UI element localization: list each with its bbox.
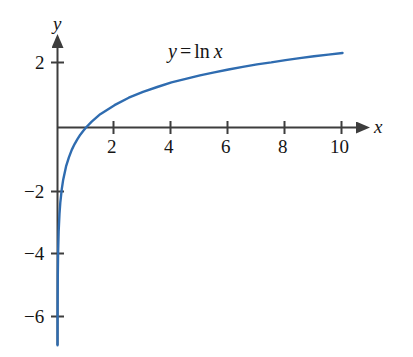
log-curve	[58, 53, 343, 345]
y-tick-label-neg6: −6	[24, 307, 44, 326]
x-tick-label-8: 8	[278, 137, 288, 156]
y-tick-label-2: 2	[35, 53, 45, 72]
x-tick-label-2: 2	[107, 137, 117, 156]
equation-function-name: ln	[194, 40, 210, 62]
equation-dependent-var: y	[168, 40, 177, 62]
x-axis-label: x	[374, 117, 382, 136]
y-tick-label-neg4: −4	[24, 244, 44, 263]
curve-equation-label: y=lnx	[168, 41, 223, 61]
x-tick-label-4: 4	[164, 137, 174, 156]
x-tick-label-6: 6	[221, 137, 231, 156]
equation-equals-sign: =	[177, 40, 194, 62]
y-axis-label: y	[53, 14, 61, 33]
equation-independent-var: x	[210, 40, 223, 62]
x-tick-label-10: 10	[330, 137, 349, 156]
y-tick-label-neg2: −2	[24, 182, 44, 201]
chart-figure: 2 4 6 8 10 2 −2 −4 −6 y x y=lnx	[0, 0, 413, 357]
